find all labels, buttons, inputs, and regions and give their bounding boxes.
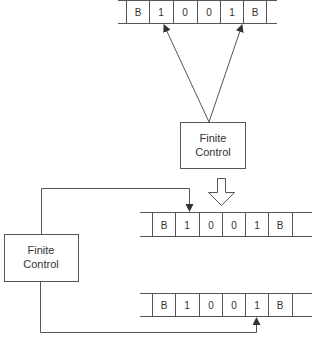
svg-text:Finite: Finite bbox=[28, 244, 55, 256]
tape-cell: 1 bbox=[184, 220, 190, 231]
tape-2: B 1 0 0 1 B bbox=[140, 293, 312, 317]
tape-1: B 1 0 0 1 B bbox=[140, 212, 312, 237]
tape-cell: 0 bbox=[231, 220, 237, 231]
tape-cell: 1 bbox=[254, 220, 260, 231]
top-tape: B 1 0 0 1 B bbox=[118, 0, 277, 24]
tape-cell: 0 bbox=[206, 7, 212, 18]
tape-cell: 0 bbox=[208, 220, 214, 231]
finite-control-box: Finite Control bbox=[181, 123, 246, 169]
tape-cell: 0 bbox=[231, 300, 237, 311]
svg-text:Control: Control bbox=[23, 258, 58, 270]
tape-cell: B bbox=[252, 7, 259, 18]
tape-cell: B bbox=[277, 300, 284, 311]
tape-cell: 1 bbox=[254, 300, 260, 311]
tape-cell: 1 bbox=[184, 300, 190, 311]
head-arrow-icon bbox=[164, 25, 209, 122]
finite-control-box-multitape: Finite Control bbox=[5, 235, 79, 282]
tape-cell: 0 bbox=[208, 300, 214, 311]
svg-text:Control: Control bbox=[195, 146, 230, 158]
head-connector-tape-2 bbox=[41, 281, 257, 333]
head-arrow-icon bbox=[209, 25, 242, 122]
svg-text:Finite: Finite bbox=[200, 132, 227, 144]
turing-machine-diagram: B 1 0 0 1 B Finite Control B 1 0 0 1 B bbox=[0, 0, 312, 347]
tape-cell: B bbox=[277, 220, 284, 231]
tape-cell: B bbox=[161, 220, 168, 231]
tape-cell: 0 bbox=[182, 7, 188, 18]
tape-cell: 1 bbox=[229, 7, 235, 18]
tape-cell: B bbox=[161, 300, 168, 311]
hollow-down-arrow-icon bbox=[209, 179, 235, 206]
tape-cell: B bbox=[135, 7, 142, 18]
tape-cell: 1 bbox=[158, 7, 164, 18]
